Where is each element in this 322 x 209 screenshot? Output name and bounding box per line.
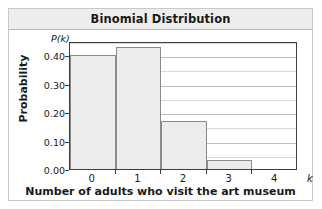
x-tick-label: 0 <box>77 173 107 184</box>
x-tick-label: 2 <box>168 173 198 184</box>
y-tick-label: 0.20 <box>37 108 65 119</box>
y-tick-label: 0.10 <box>37 136 65 147</box>
page-title: Binomial Distribution <box>91 12 231 26</box>
x-tick-label: 1 <box>122 173 152 184</box>
y-tick-label: 0.40 <box>37 51 65 62</box>
plot-region: Probability P(k) 0.000.100.200.300.40 01… <box>9 30 312 200</box>
x-axis-label: Number of adults who visit the art museu… <box>9 185 312 198</box>
x-axis-symbol-label: k <box>307 173 313 184</box>
figure-frame: Binomial Distribution Probability P(k) 0… <box>8 8 313 201</box>
chart-title-banner: Binomial Distribution <box>9 9 312 30</box>
y-tick-label: 0.30 <box>37 79 65 90</box>
y-tick-label-group: 0.000.100.200.300.40 <box>35 42 65 170</box>
y-tick-label: 0.00 <box>37 165 65 176</box>
y-axis-label: Probability <box>17 44 30 134</box>
plot-area <box>69 42 297 170</box>
bar-0 <box>70 55 116 169</box>
x-tick-label: 3 <box>214 173 244 184</box>
bar-1 <box>116 47 162 169</box>
gridline <box>70 43 296 44</box>
bar-2 <box>161 121 207 169</box>
bar-3 <box>207 160 253 169</box>
x-tick-label: 4 <box>259 173 289 184</box>
